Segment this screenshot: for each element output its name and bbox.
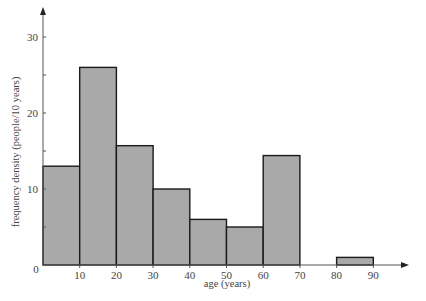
origin-label: 0: [33, 263, 39, 275]
x-tick-label: 70: [294, 269, 306, 281]
x-tick-label: 20: [111, 269, 123, 281]
histogram-bar: [153, 189, 190, 265]
y-axis-arrow-icon: [40, 7, 46, 15]
histogram-bar: [190, 219, 227, 265]
x-tick-label: 30: [148, 269, 160, 281]
y-tick-label: 20: [27, 107, 39, 119]
y-axis-label: frequency density (people/10 years): [10, 76, 22, 227]
histogram-bar: [263, 156, 300, 265]
histogram-chart: 102030 102030405060708090 0 age (years) …: [0, 0, 426, 301]
x-tick-label: 40: [184, 269, 196, 281]
x-tick-label: 80: [331, 269, 343, 281]
histogram-bar: [227, 227, 264, 265]
histogram-bar: [80, 67, 117, 265]
histogram-bar: [337, 257, 374, 265]
x-axis-label: age (years): [204, 278, 251, 290]
x-axis-arrow-icon: [401, 262, 409, 268]
x-tick-label: 90: [368, 269, 380, 281]
y-tick-label: 10: [27, 183, 39, 195]
x-tick-label: 60: [258, 269, 270, 281]
histogram-bar: [43, 166, 80, 265]
histogram-bars: [43, 67, 373, 265]
y-tick-label: 30: [27, 31, 39, 43]
x-tick-label: 10: [74, 269, 86, 281]
histogram-bar: [116, 146, 153, 265]
